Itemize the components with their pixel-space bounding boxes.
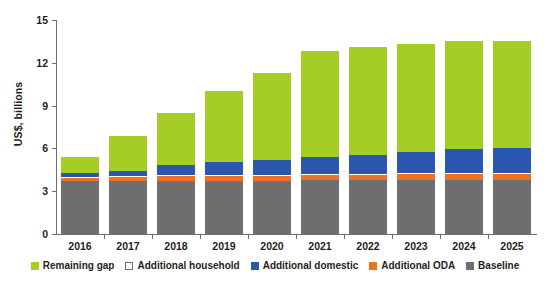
bar-segment[interactable] [349,175,386,180]
bar-segment[interactable] [157,113,194,165]
y-axis-tick-label: 0 [42,228,48,240]
bar-segment[interactable] [253,160,290,175]
x-axis-tick-mark [152,234,153,239]
bar-segment[interactable] [109,176,146,177]
bar-segment[interactable] [397,180,434,234]
bar-segment[interactable] [445,180,482,234]
x-axis-tick-label: 2016 [68,240,91,252]
x-axis-tick-label: 2017 [116,240,139,252]
bar-segment[interactable] [301,174,338,175]
bar-segment[interactable] [205,91,242,162]
bar-group[interactable] [109,20,146,234]
bar-segment[interactable] [205,176,242,181]
y-axis-tick-mark [52,20,56,21]
bar-segment[interactable] [253,73,290,160]
x-axis-tick-mark [392,234,393,239]
x-axis-tick-mark [248,234,249,239]
bar-group[interactable] [349,20,386,234]
bar-group[interactable] [493,20,530,234]
y-axis-tick-label: 15 [36,14,48,26]
bar-group[interactable] [61,20,98,234]
bar-segment[interactable] [61,178,98,182]
legend-item[interactable]: Additional household [125,260,239,271]
bar-segment[interactable] [109,177,146,181]
bar-group[interactable] [301,20,338,234]
y-axis-tick-mark [52,63,56,64]
legend-item-label: Additional domestic [263,260,359,271]
y-axis-tick-mark [52,191,56,192]
bar-segment[interactable] [301,180,338,234]
bar-segment[interactable] [109,181,146,234]
plot-area [56,20,536,234]
bar-segment[interactable] [493,174,530,180]
bar-segment[interactable] [157,175,194,176]
legend-item[interactable]: Remaining gap [31,260,115,271]
bar-segment[interactable] [301,175,338,180]
bar-segment[interactable] [253,181,290,235]
x-axis-tick-label: 2020 [260,240,283,252]
y-axis-tick-label: 6 [42,142,48,154]
square-swatch-green-icon [31,262,39,270]
bar-segment[interactable] [301,51,338,156]
x-axis-tick-mark [296,234,297,239]
bar-segment[interactable] [157,181,194,235]
x-axis-tick-label: 2025 [500,240,523,252]
x-axis-tick-label: 2024 [452,240,475,252]
bar-segment[interactable] [109,171,146,177]
bar-group[interactable] [445,20,482,234]
bar-segment[interactable] [493,173,530,174]
bar-segment[interactable] [493,180,530,234]
bar-segment[interactable] [61,177,98,178]
bar-series-layer [56,20,536,234]
bar-segment[interactable] [397,44,434,152]
y-axis-tick-label: 9 [42,100,48,112]
bar-segment[interactable] [349,155,386,174]
bar-group[interactable] [397,20,434,234]
legend-item[interactable]: Baseline [466,260,519,271]
bar-segment[interactable] [397,152,434,173]
legend-item-label: Additional ODA [381,260,455,271]
x-axis-tick-mark [200,234,201,239]
bar-segment[interactable] [349,47,386,155]
bar-group[interactable] [157,20,194,234]
legend-item[interactable]: Additional ODA [369,260,455,271]
x-axis-tick-mark [440,234,441,239]
x-axis-tick-label: 2021 [308,240,331,252]
bar-segment[interactable] [397,174,434,180]
bar-segment[interactable] [61,173,98,177]
bar-segment[interactable] [205,162,242,175]
bar-segment[interactable] [445,41,482,149]
bar-segment[interactable] [61,157,98,173]
bar-segment[interactable] [61,181,98,234]
bar-segment[interactable] [445,173,482,174]
x-axis-tick-mark [104,234,105,239]
bar-segment[interactable] [493,148,530,174]
legend-item[interactable]: Additional domestic [251,260,359,271]
bar-segment[interactable] [445,149,482,173]
bar-segment[interactable] [445,174,482,180]
bar-segment[interactable] [109,136,146,171]
bar-segment[interactable] [349,180,386,234]
bar-segment[interactable] [349,174,386,175]
bar-segment[interactable] [301,157,338,174]
x-axis-tick-mark [488,234,489,239]
y-axis-tick-label: 12 [36,57,48,69]
legend-item-label: Remaining gap [43,260,115,271]
square-swatch-gray-icon [466,262,474,270]
bar-segment[interactable] [253,176,290,181]
y-axis-tick-mark [52,106,56,107]
y-axis-tick-mark [52,148,56,149]
bar-segment[interactable] [493,41,530,147]
bar-group[interactable] [205,20,242,234]
bar-segment[interactable] [157,165,194,176]
bar-segment[interactable] [205,175,242,176]
x-axis-tick-label: 2022 [356,240,379,252]
bar-segment[interactable] [397,173,434,174]
bar-segment[interactable] [253,175,290,176]
x-axis-tick-label: 2018 [164,240,187,252]
y-axis-tick-mark [52,234,56,235]
bar-group[interactable] [253,20,290,234]
bar-segment[interactable] [157,176,194,181]
bar-segment[interactable] [205,181,242,235]
legend-item-label: Baseline [478,260,519,271]
